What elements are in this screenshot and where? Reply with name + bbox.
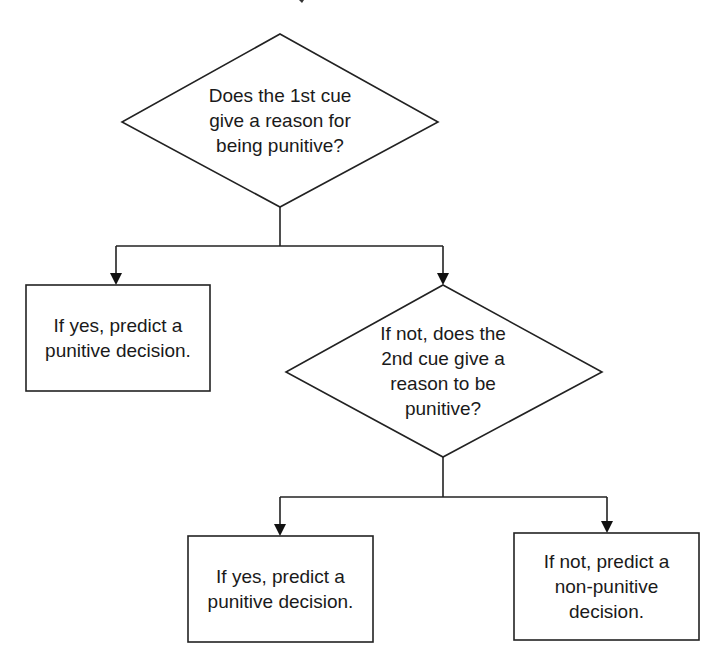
connector-q2: [280, 457, 607, 528]
cropped-glyph-artifact: [299, 0, 304, 3]
arrowhead-down-icon: [437, 273, 449, 285]
connector-q1: [116, 207, 443, 278]
arrowhead-down-icon: [274, 524, 286, 536]
decision-2-text: If not, does the 2nd cue give a reason t…: [343, 321, 543, 421]
decision-1-text: Does the 1st cue give a reason for being…: [180, 83, 380, 158]
outcome-1-text: If yes, predict a punitive decision.: [26, 313, 210, 363]
outcome-2-text: If yes, predict a punitive decision.: [188, 564, 373, 614]
arrowhead-down-icon: [110, 273, 122, 285]
arrowhead-down-icon: [601, 521, 613, 533]
outcome-3-text: If not, predict a non-punitive decision.: [514, 549, 699, 624]
